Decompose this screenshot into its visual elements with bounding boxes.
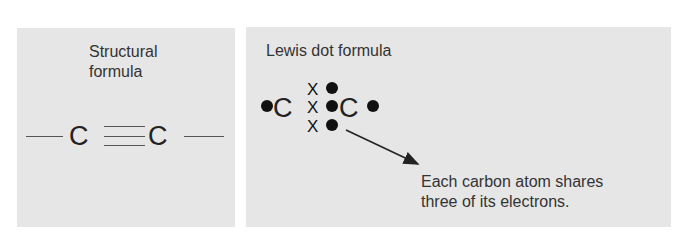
lewis-dot-panel: Lewis dot formula C X X X C Each carbon … [246, 27, 671, 227]
carbon-atom-1: C [69, 121, 89, 151]
caption-line2: three of its electrons. [421, 192, 603, 212]
caption: Each carbon atom shares three of its ele… [421, 172, 603, 212]
structural-title: Structural formula [89, 42, 157, 82]
caption-line1: Each carbon atom shares [421, 172, 603, 192]
carbon-atom-2: C [148, 121, 168, 151]
triple-bond-line-3 [104, 145, 145, 146]
triple-bond-line-1 [104, 126, 145, 127]
title-line1: Structural [89, 42, 157, 62]
single-bond-right [184, 136, 224, 137]
triple-bond-line-2 [104, 136, 145, 137]
title-line2: formula [89, 62, 157, 82]
structural-formula-panel: Structural formula C C [17, 28, 235, 227]
single-bond-left [26, 136, 63, 137]
